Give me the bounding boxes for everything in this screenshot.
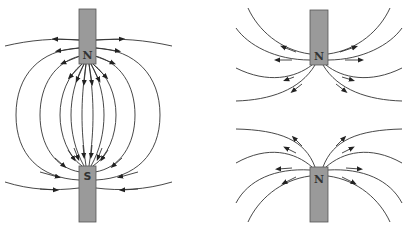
field-line xyxy=(96,39,172,46)
field-line xyxy=(5,182,79,190)
field-line xyxy=(96,48,160,180)
pole-label-n: N xyxy=(314,173,324,186)
pole-label-n: N xyxy=(314,50,324,63)
field-line xyxy=(96,182,172,190)
pole-label-n: N xyxy=(82,49,92,62)
panel-like-poles-bottom: N xyxy=(236,129,402,222)
field-line xyxy=(16,48,79,180)
magnetic-field-diagram: N S N xyxy=(0,0,413,230)
panel-opposite-poles: N S xyxy=(5,9,172,222)
pole-label-s: S xyxy=(84,170,92,183)
field-line xyxy=(5,39,79,46)
field-line xyxy=(95,56,135,172)
panel-like-poles-top: N xyxy=(236,8,402,101)
